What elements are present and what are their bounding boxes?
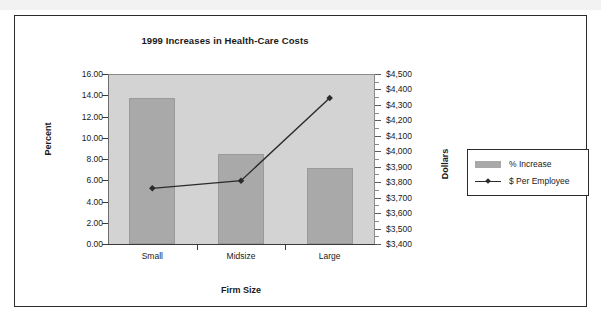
y-axis-left-tick-label: 8.00 xyxy=(59,154,103,164)
x-axis-category-label: Large xyxy=(319,251,341,261)
y-axis-left-tick-mark xyxy=(102,202,108,203)
y-axis-right-tick-label: $4,400 xyxy=(386,84,434,94)
legend-label-percent-increase: % Increase xyxy=(509,159,552,169)
legend-line-swatch-icon xyxy=(475,177,501,186)
scan-edge-band xyxy=(0,0,601,10)
line-series-path xyxy=(152,98,329,188)
y-axis-left-tick-mark xyxy=(102,223,108,224)
x-axis-category-label: Small xyxy=(142,251,163,261)
legend-item-dollars-per-employee: $ Per Employee xyxy=(475,174,569,188)
y-axis-right-minor-tick-mark xyxy=(375,113,379,114)
x-axis-category-separator xyxy=(285,245,286,250)
y-axis-right-tick-label: $4,000 xyxy=(386,146,434,156)
y-axis-left-tick-mark xyxy=(102,180,108,181)
y-axis-right-tick-label: $3,400 xyxy=(386,239,434,249)
x-axis-baseline xyxy=(107,244,375,245)
y-axis-right-tick-label: $4,200 xyxy=(386,115,434,125)
legend-label-dollars-per-employee: $ Per Employee xyxy=(509,176,569,186)
chart-figure-frame: 1999 Increases in Health-Care Costs 16.0… xyxy=(14,15,587,307)
y-axis-right-tick-label: $4,100 xyxy=(386,131,434,141)
y-axis-left-tick-label: 2.00 xyxy=(59,218,103,228)
x-axis-category-label: Midsize xyxy=(227,251,256,261)
y-axis-right-minor-tick-mark xyxy=(375,97,379,98)
y-axis-right-tick-mark xyxy=(375,229,381,230)
y-axis-right-tick-mark xyxy=(375,105,381,106)
y-axis-left-tick-mark xyxy=(102,138,108,139)
y-axis-right-tick-label: $3,500 xyxy=(386,224,434,234)
y-axis-right-tick-label: $3,600 xyxy=(386,208,434,218)
y-axis-left-tick-label: 6.00 xyxy=(59,175,103,185)
y-axis-right-minor-tick-mark xyxy=(375,221,379,222)
y-axis-right-tick-label: $3,900 xyxy=(386,162,434,172)
legend-item-percent-increase: % Increase xyxy=(475,157,552,171)
y-axis-right-tick-label: $3,800 xyxy=(386,177,434,187)
y-axis-right-tick-mark xyxy=(375,136,381,137)
line-data-point-marker xyxy=(149,185,156,192)
y-axis-right-tick-labels: $4,500$4,400$4,300$4,200$4,100$4,000$3,9… xyxy=(386,74,434,244)
y-axis-right-tick-mark xyxy=(375,151,381,152)
y-axis-right-minor-tick-mark xyxy=(375,128,379,129)
y-axis-right-minor-tick-mark xyxy=(375,82,379,83)
y-axis-right-tick-mark xyxy=(375,89,381,90)
chart-title: 1999 Increases in Health-Care Costs xyxy=(15,35,435,46)
y-axis-right-minor-tick-mark xyxy=(375,144,379,145)
y-axis-left-tick-mark xyxy=(102,117,108,118)
y-axis-right-title: Dollars xyxy=(440,149,450,180)
y-axis-right-tick-label: $3,700 xyxy=(386,193,434,203)
x-axis-category-separator xyxy=(197,245,198,250)
line-series-layer xyxy=(108,74,374,244)
y-axis-right-tick-label: $4,300 xyxy=(386,100,434,110)
y-axis-right-minor-tick-mark xyxy=(375,205,379,206)
y-axis-left-tick-label: 14.00 xyxy=(59,90,103,100)
y-axis-right-tick-mark xyxy=(375,213,381,214)
y-axis-left-tick-labels: 16.0014.0012.0010.008.006.004.002.000.00 xyxy=(59,74,103,244)
y-axis-left-tick-mark xyxy=(102,74,108,75)
y-axis-right-tick-label: $4,500 xyxy=(386,69,434,79)
y-axis-right-tick-mark xyxy=(375,74,381,75)
y-axis-left-tick-mark xyxy=(102,95,108,96)
y-axis-left-tick-label: 0.00 xyxy=(59,239,103,249)
legend-bar-swatch-icon xyxy=(475,161,501,168)
y-axis-right-minor-tick-mark xyxy=(375,190,379,191)
y-axis-right-tick-mark xyxy=(375,120,381,121)
y-axis-left-tick-label: 16.00 xyxy=(59,69,103,79)
legend-diamond-marker-icon xyxy=(485,178,491,184)
y-axis-right-minor-tick-mark xyxy=(375,174,379,175)
y-axis-left-tick-mark xyxy=(102,244,108,245)
y-axis-left-tick-label: 4.00 xyxy=(59,197,103,207)
x-axis-title: Firm Size xyxy=(108,285,374,295)
y-axis-left-title: Percent xyxy=(43,122,53,155)
y-axis-right-tick-mark xyxy=(375,198,381,199)
y-axis-right-minor-tick-mark xyxy=(375,236,379,237)
y-axis-left-tick-label: 12.00 xyxy=(59,112,103,122)
line-series-markers xyxy=(149,95,333,192)
y-axis-right-tick-mark xyxy=(375,167,381,168)
y-axis-left-tick-mark xyxy=(102,159,108,160)
y-axis-right-tick-mark xyxy=(375,244,381,245)
y-axis-right-tick-mark xyxy=(375,182,381,183)
y-axis-left-tick-label: 10.00 xyxy=(59,133,103,143)
chart-legend: % Increase $ Per Employee xyxy=(467,149,589,196)
y-axis-right-minor-tick-mark xyxy=(375,159,379,160)
